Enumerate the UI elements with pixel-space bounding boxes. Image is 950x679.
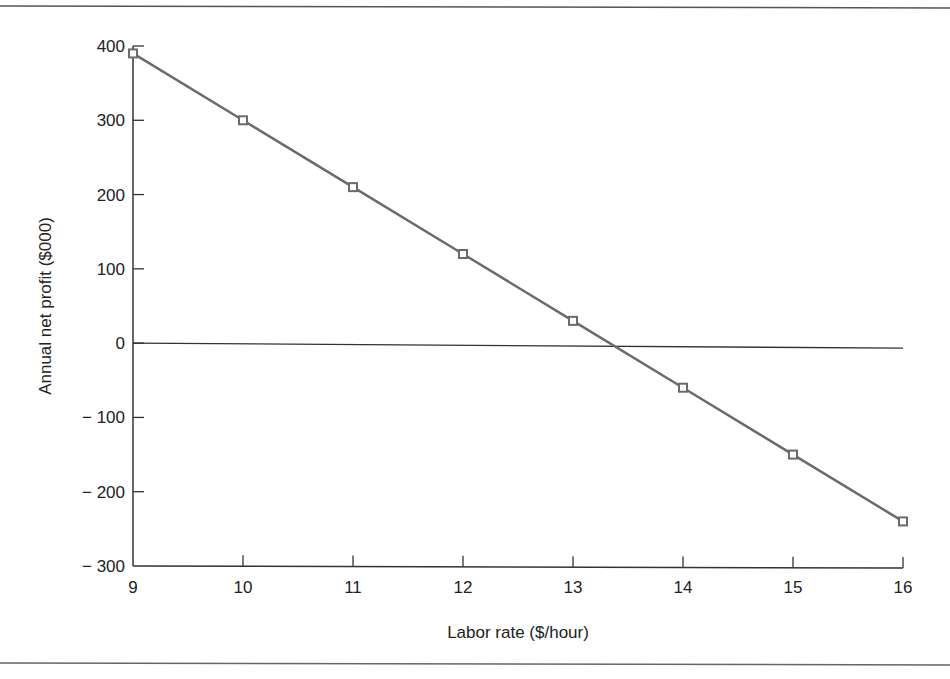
figure-bottom-rule [0, 663, 950, 665]
data-point-marker [129, 49, 137, 57]
data-point-marker [239, 116, 247, 124]
y-tick-label: 300 [97, 111, 125, 130]
x-tick-label: 13 [564, 578, 583, 597]
y-tick-label: 100 [97, 260, 125, 279]
x-tick-label: 12 [454, 578, 473, 597]
y-tick-label: 200 [97, 186, 125, 205]
data-point-marker [569, 317, 577, 325]
x-axis-title: Labor rate ($/hour) [447, 623, 589, 642]
figure-top-rule [0, 6, 950, 8]
data-point-marker [349, 183, 357, 191]
zero-reference-line [133, 343, 903, 348]
x-axis-line [133, 566, 903, 568]
data-point-marker [899, 517, 907, 525]
y-tick-label: − 100 [82, 408, 125, 427]
data-point-marker [459, 250, 467, 258]
x-tick-label: 15 [784, 578, 803, 597]
data-point-marker [789, 451, 797, 459]
y-tick-label: 0 [116, 334, 125, 353]
x-tick-label: 16 [894, 578, 913, 597]
x-tick-label: 14 [674, 578, 693, 597]
x-tick-label: 9 [128, 578, 137, 597]
chart-figure: 4003002001000− 100− 200− 300910111213141… [0, 0, 950, 679]
y-tick-label: − 200 [82, 483, 125, 502]
x-tick-label: 10 [234, 578, 253, 597]
y-axis-title: Annual net profit ($000) [36, 217, 55, 395]
y-tick-label: − 300 [82, 557, 125, 576]
plot-area: 4003002001000− 100− 200− 300910111213141… [82, 37, 912, 597]
y-tick-label: 400 [97, 37, 125, 56]
x-tick-label: 11 [344, 578, 362, 597]
data-line [133, 53, 903, 521]
data-point-marker [679, 384, 687, 392]
